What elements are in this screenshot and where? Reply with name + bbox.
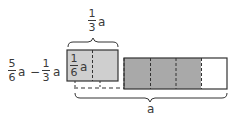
bottom-brace: [75, 93, 227, 102]
top-variable: a: [98, 16, 105, 28]
inner-fraction: 1 6: [70, 53, 78, 78]
left-variable-1: a: [18, 66, 25, 78]
left-fraction-2: 1 3: [42, 58, 50, 83]
inner-variable: a: [80, 61, 87, 73]
top-fraction: 1 3: [88, 8, 96, 33]
left-variable-2: a: [53, 66, 60, 78]
tape-diagram: [0, 0, 238, 118]
top-brace: [68, 38, 118, 47]
large-bar-shaded: [124, 58, 201, 89]
minus-sign: −: [30, 66, 40, 78]
left-fraction-1: 5 6: [8, 58, 16, 83]
bottom-label: a: [147, 103, 154, 115]
